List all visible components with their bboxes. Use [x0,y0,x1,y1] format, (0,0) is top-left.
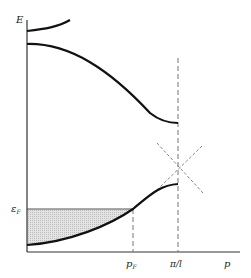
momentum-axis-label: p [224,258,231,269]
fermi-momentum-subscript: F [131,263,137,270]
upper-band-curve [27,44,178,123]
fermi-energy-subscript: F [15,208,21,215]
energy-axis-label: E [15,14,24,25]
free-electron-line-ascending [157,145,203,190]
fermi-momentum-label: pF [126,258,137,270]
third-band-curve [27,20,70,31]
zone-boundary-label: π/l [169,259,182,269]
occupied-region [27,209,133,245]
band-diagram: E p εF pF π/l [0,0,251,278]
fermi-energy-label: εF [11,203,21,215]
